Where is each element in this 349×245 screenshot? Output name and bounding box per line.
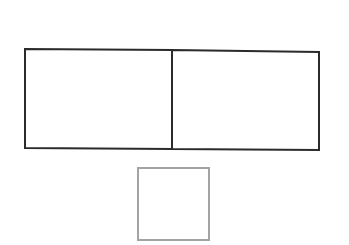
left-rectangle	[25, 49, 172, 149]
small-square	[138, 168, 209, 240]
diagram-canvas	[0, 0, 349, 245]
right-rectangle	[172, 50, 319, 150]
